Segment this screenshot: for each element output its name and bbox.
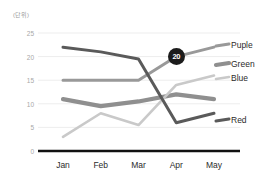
- legend-swatch-puple: [216, 44, 229, 46]
- legend-label-green[interactable]: Green: [231, 59, 255, 69]
- x-tick-label: Feb: [93, 160, 108, 170]
- series-line-red[interactable]: [63, 47, 214, 123]
- x-tick-label: Jan: [56, 160, 70, 170]
- x-tick-label: May: [206, 160, 222, 170]
- series-line-green[interactable]: [63, 94, 214, 106]
- legend-swatch-blue: [216, 77, 229, 79]
- x-tick-label: Mar: [131, 160, 146, 170]
- data-point-badge[interactable]: 20: [168, 48, 185, 65]
- legend-label-red[interactable]: Red: [231, 115, 247, 125]
- legend-swatches: [216, 44, 229, 121]
- series-lines: [63, 47, 214, 137]
- legend-swatch-red: [216, 119, 229, 121]
- legend-label-puple[interactable]: Puple: [231, 40, 253, 50]
- legend-swatch-green: [216, 63, 229, 65]
- x-tick-label: Apr: [170, 160, 183, 170]
- series-line-puple[interactable]: [63, 47, 214, 80]
- line-chart: (단위) 0510152025 JanFebMarAprMay PupleGre…: [0, 0, 272, 190]
- legend-label-blue[interactable]: Blue: [231, 73, 248, 83]
